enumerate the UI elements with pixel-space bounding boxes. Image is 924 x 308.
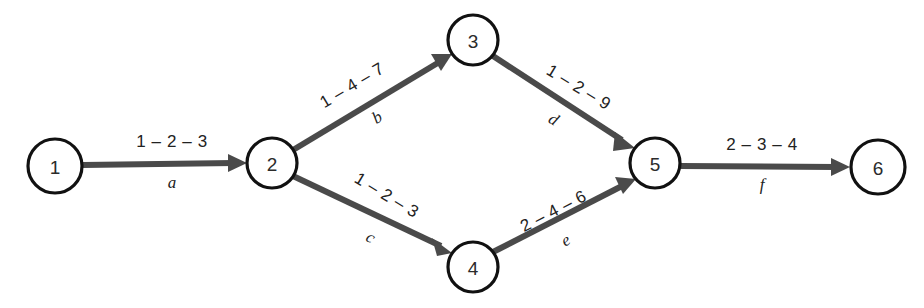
edge-group-c[interactable]: 1 – 2 – 3 c <box>293 169 452 256</box>
node-4[interactable]: 4 <box>448 242 498 292</box>
node-3-label: 3 <box>468 31 479 52</box>
edge-c-times: 1 – 2 – 3 <box>351 169 422 222</box>
network-diagram: 1 – 2 – 3 a 1 – 4 – 7 b 1 – 2 – 3 c 1 – … <box>0 0 924 308</box>
arrowhead-d <box>613 132 635 151</box>
arrowhead-a <box>228 154 247 172</box>
edge-f-times: 2 – 3 – 4 <box>726 135 798 154</box>
edge-group-d[interactable]: 1 – 2 – 9 d <box>493 56 635 151</box>
edge-a-times: 1 – 2 – 3 <box>136 132 208 151</box>
node-1-label: 1 <box>50 157 61 178</box>
edge-a-name: a <box>168 173 177 192</box>
edge-group-e[interactable]: 2 – 4 – 6 e <box>493 177 636 252</box>
arrowhead-c <box>432 238 452 256</box>
node-5-label: 5 <box>650 154 661 175</box>
node-6-label: 6 <box>873 158 884 179</box>
node-2-label: 2 <box>267 154 278 175</box>
edge-e-name: e <box>558 230 574 251</box>
node-6[interactable]: 6 <box>851 140 905 194</box>
edge-b-name: b <box>369 107 386 128</box>
node-5[interactable]: 5 <box>630 138 680 188</box>
edge-b-times: 1 – 4 – 7 <box>317 59 388 112</box>
edge-d-name: d <box>545 109 563 130</box>
node-2[interactable]: 2 <box>247 138 297 188</box>
network-diagram-canvas: 1 – 2 – 3 a 1 – 4 – 7 b 1 – 2 – 3 c 1 – … <box>0 0 924 308</box>
node-3[interactable]: 3 <box>448 15 498 65</box>
edge-d-times: 1 – 2 – 9 <box>543 61 614 114</box>
edge-f-name: f <box>760 175 767 194</box>
edge-line-f <box>681 166 836 167</box>
node-1[interactable]: 1 <box>28 139 82 193</box>
arrowhead-f <box>831 158 850 176</box>
edge-group-f[interactable]: 2 – 3 – 4 f <box>681 135 850 194</box>
edge-group-b[interactable]: 1 – 4 – 7 b <box>293 54 452 150</box>
edge-group-a[interactable]: 1 – 2 – 3 a <box>83 132 247 192</box>
edge-line-a <box>83 163 234 165</box>
edge-c-name: c <box>363 227 380 247</box>
node-4-label: 4 <box>468 258 479 279</box>
